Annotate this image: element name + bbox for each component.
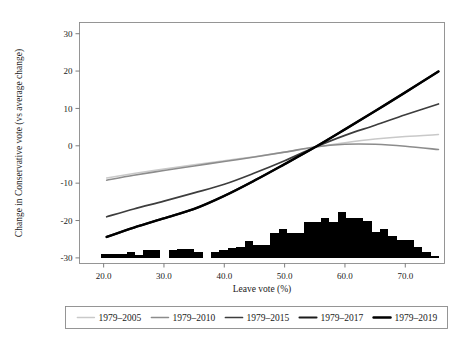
histogram-bar <box>245 241 253 257</box>
legend-label-1979–2015[interactable]: 1979–2015 <box>246 313 289 323</box>
histogram-bar <box>380 229 388 257</box>
histogram-bar <box>110 254 118 258</box>
histogram-bar <box>422 252 430 258</box>
figure-container: 3020100-10-20-30 20.030.040.050.060.070.… <box>0 0 470 351</box>
histogram-bar <box>338 212 346 258</box>
x-tick-label: 60.0 <box>337 271 353 281</box>
histogram-bar <box>143 250 151 258</box>
legend-label-1979–2010[interactable]: 1979–2010 <box>172 313 215 323</box>
histogram-bar <box>177 249 185 258</box>
legend-label-1979–2019[interactable]: 1979–2019 <box>395 313 438 323</box>
y-tick-label: -10 <box>61 178 73 188</box>
legend-label-1979–2005[interactable]: 1979–2005 <box>98 313 141 323</box>
histogram-bar <box>405 240 413 258</box>
x-tick-label: 20.0 <box>96 271 112 281</box>
y-tick-label: 20 <box>64 66 74 76</box>
histogram-bar <box>372 232 380 258</box>
x-axis: 20.030.040.050.060.070.0 <box>96 264 414 281</box>
histogram-bar <box>304 222 312 258</box>
histogram-bars <box>101 212 439 258</box>
leave-vote-conservative-change-chart: 3020100-10-20-30 20.030.040.050.060.070.… <box>0 0 470 351</box>
y-axis-title: Change in Conservative vote (vs average … <box>14 49 25 237</box>
y-tick-label: 10 <box>64 104 74 114</box>
histogram-bar <box>355 218 363 258</box>
series-lines <box>107 71 439 237</box>
y-tick-label: 30 <box>64 29 74 39</box>
histogram-bar <box>186 249 194 258</box>
histogram-bar <box>312 222 320 258</box>
histogram-bar <box>219 250 227 258</box>
histogram-bar <box>388 236 396 258</box>
histogram-bar <box>127 252 135 258</box>
histogram-bar <box>363 221 371 258</box>
histogram-bar <box>346 218 354 258</box>
histogram-bar <box>321 218 329 258</box>
histogram-bar <box>135 255 143 258</box>
histogram-bar <box>228 248 236 258</box>
histogram-bar <box>101 254 109 258</box>
x-tick-label: 40.0 <box>216 271 232 281</box>
histogram-bar <box>152 250 160 258</box>
histogram-bar <box>279 229 287 257</box>
histogram-bar <box>236 247 244 258</box>
histogram-bar <box>169 250 177 257</box>
histogram-bar <box>295 233 303 258</box>
x-tick-label: 50.0 <box>277 271 293 281</box>
histogram-bar <box>194 252 202 258</box>
histogram-bar <box>118 254 126 258</box>
legend-label-1979–2017[interactable]: 1979–2017 <box>321 313 364 323</box>
x-tick-label: 30.0 <box>156 271 172 281</box>
histogram-bar <box>431 256 439 258</box>
y-tick-label: -30 <box>61 253 73 263</box>
histogram-bar <box>329 222 337 258</box>
y-tick-label: -20 <box>61 216 73 226</box>
y-axis: 3020100-10-20-30 <box>61 29 80 263</box>
histogram-bar <box>262 245 270 258</box>
series-line-1979–2015 <box>107 104 439 217</box>
histogram-bar <box>397 240 405 258</box>
histogram-bar <box>414 247 422 257</box>
histogram-bar <box>211 252 219 258</box>
histogram-bar <box>253 245 261 258</box>
y-tick-label: 0 <box>68 141 73 151</box>
x-axis-title: Leave vote (%) <box>233 284 292 295</box>
x-tick-label: 70.0 <box>397 271 413 281</box>
series-line-1979–2010 <box>107 144 439 180</box>
histogram-bar <box>270 233 278 258</box>
histogram-bar <box>287 233 295 258</box>
